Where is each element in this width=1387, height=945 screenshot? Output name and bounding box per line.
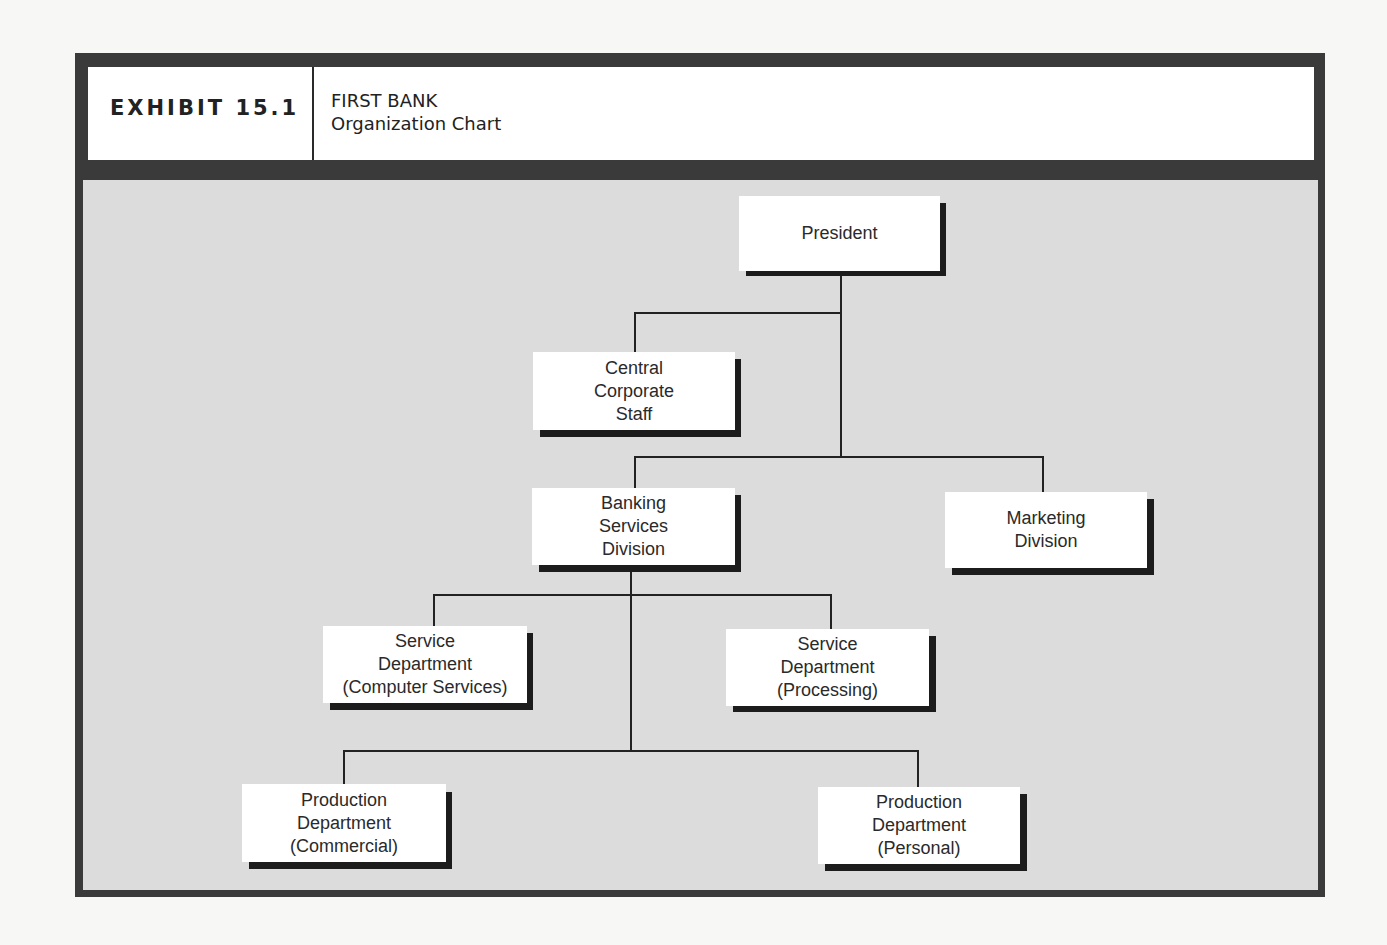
node-label: Production bbox=[872, 791, 966, 814]
node-banking-services-division: Banking Services Division bbox=[532, 488, 735, 565]
node-label: Service bbox=[777, 633, 878, 656]
connector-staff-horizontal bbox=[634, 312, 842, 314]
node-label: Department bbox=[342, 653, 507, 676]
node-label: Production bbox=[290, 789, 398, 812]
connector-banking-drop bbox=[634, 456, 636, 489]
node-label: (Computer Services) bbox=[342, 676, 507, 699]
node-label: Banking bbox=[599, 492, 668, 515]
node-label: President bbox=[801, 222, 877, 245]
connector-production-commercial-drop bbox=[343, 750, 345, 785]
node-production-dept-commercial: Production Department (Commercial) bbox=[242, 784, 446, 862]
connector-production-horizontal bbox=[343, 750, 919, 752]
node-label: Marketing bbox=[1006, 507, 1085, 530]
connector-service-horizontal bbox=[433, 594, 832, 596]
node-label: Division bbox=[599, 538, 668, 561]
node-label: (Commercial) bbox=[290, 835, 398, 858]
connector-president-trunk bbox=[840, 274, 842, 458]
node-production-dept-personal: Production Department (Personal) bbox=[818, 787, 1020, 864]
connector-service-computer-drop bbox=[433, 594, 435, 627]
connector-staff-drop bbox=[634, 312, 636, 353]
node-label: Department bbox=[777, 656, 878, 679]
node-label: Central bbox=[594, 357, 674, 380]
node-service-dept-computer: Service Department (Computer Services) bbox=[323, 626, 527, 703]
node-label: (Processing) bbox=[777, 679, 878, 702]
node-label: Services bbox=[599, 515, 668, 538]
title-line-bank: FIRST BANK bbox=[331, 89, 501, 112]
node-service-dept-processing: Service Department (Processing) bbox=[726, 629, 929, 706]
exhibit-label: EXHIBIT 15.1 bbox=[110, 96, 299, 120]
node-label: Corporate bbox=[594, 380, 674, 403]
node-marketing-division: Marketing Division bbox=[945, 492, 1147, 568]
connector-service-processing-drop bbox=[830, 594, 832, 630]
node-label: Department bbox=[872, 814, 966, 837]
connector-production-personal-drop bbox=[917, 750, 919, 788]
connector-banking-trunk bbox=[630, 570, 632, 752]
node-label: (Personal) bbox=[872, 837, 966, 860]
node-label: Staff bbox=[594, 403, 674, 426]
header-divider bbox=[312, 67, 314, 160]
node-president: President bbox=[739, 196, 940, 271]
node-label: Division bbox=[1006, 530, 1085, 553]
connector-marketing-drop bbox=[1042, 456, 1044, 493]
node-central-corporate-staff: Central Corporate Staff bbox=[533, 352, 735, 430]
exhibit-title: FIRST BANK Organization Chart bbox=[331, 89, 501, 135]
connector-divisions-horizontal bbox=[634, 456, 1044, 458]
title-line-chart: Organization Chart bbox=[331, 112, 501, 135]
node-label: Service bbox=[342, 630, 507, 653]
node-label: Department bbox=[290, 812, 398, 835]
